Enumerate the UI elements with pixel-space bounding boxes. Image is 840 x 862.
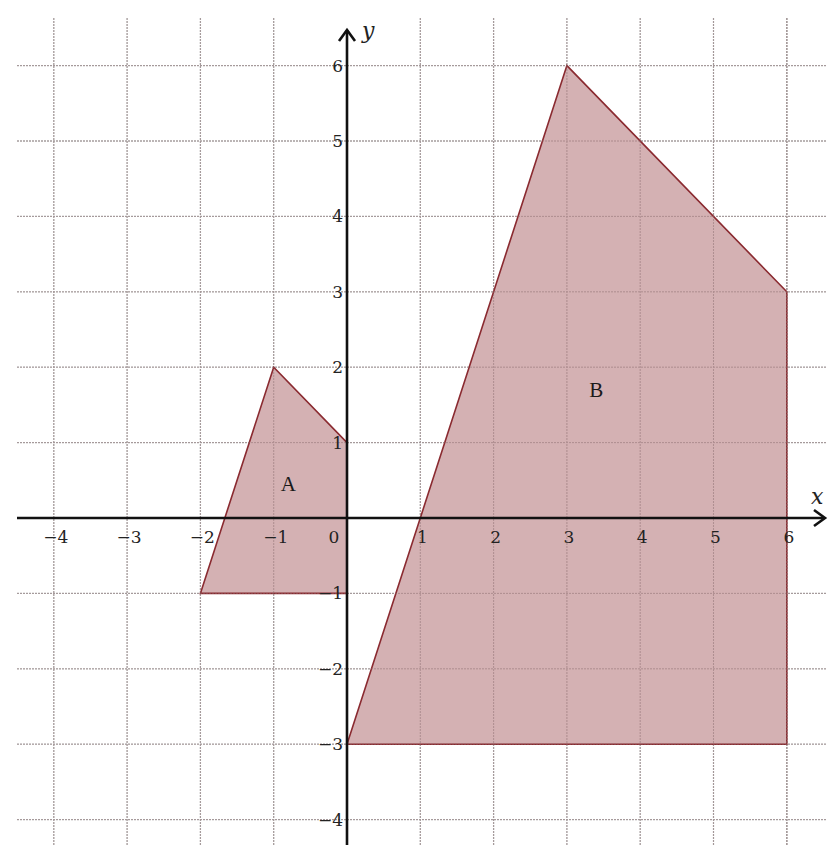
- y-tick-label: 4: [332, 206, 343, 226]
- x-tick-label: 6: [783, 527, 794, 547]
- x-tick-label: −2: [190, 527, 215, 547]
- x-tick-label: 3: [563, 527, 574, 547]
- x-tick-label: 0: [329, 527, 340, 547]
- coordinate-plane: x y −4−3−2−10123456−4−3−2−1123456 A B: [0, 0, 840, 862]
- y-tick-label: −1: [318, 583, 343, 603]
- shapes-layer: [17, 18, 826, 845]
- y-tick-label: 5: [332, 131, 343, 151]
- y-tick-label: −3: [318, 734, 343, 754]
- y-axis-label: y: [361, 18, 375, 43]
- x-tick-label: −4: [43, 527, 68, 547]
- x-tick-label: −1: [263, 527, 288, 547]
- x-tick-label: 5: [710, 527, 721, 547]
- y-tick-label: 2: [332, 357, 343, 377]
- y-tick-label: 1: [332, 433, 343, 453]
- x-tick-label: 2: [490, 527, 501, 547]
- y-tick-label: −2: [318, 659, 343, 679]
- y-tick-label: −4: [318, 810, 343, 830]
- x-tick-label: 4: [637, 527, 648, 547]
- x-axis-label: x: [811, 484, 824, 509]
- y-tick-label: 3: [332, 282, 343, 302]
- x-tick-label: −3: [117, 527, 142, 547]
- y-tick-label: 6: [332, 56, 343, 76]
- shape-a-label: A: [281, 472, 297, 496]
- shape-b-label: B: [589, 378, 603, 402]
- x-tick-label: 1: [417, 527, 428, 547]
